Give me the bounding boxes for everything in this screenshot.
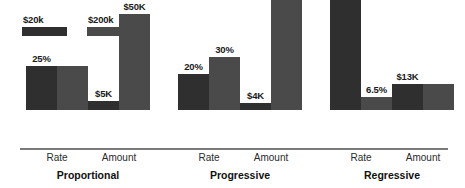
measure-label-amount: Amount [102, 152, 136, 163]
bar-value-label: 30% [215, 44, 233, 55]
bar-regressive-amount-20k: $13K [392, 84, 423, 110]
bar-value-label: 25% [32, 53, 50, 64]
axis-baseline [20, 148, 448, 150]
measure-label-amount: Amount [406, 152, 440, 163]
bar-proportional-rate-20k: 25% [26, 66, 57, 110]
grouped-bar-chart: $20k $200k 25%$5K$50K20%30%$4K$60K65%6.5… [0, 0, 465, 188]
bar-value-label: 6.5% [366, 84, 387, 95]
measure-label-rate: Rate [198, 152, 219, 163]
bar-value-label: $4K [247, 90, 264, 101]
measure-label-rate: Rate [46, 152, 67, 163]
bar-progressive-rate-20k: 20% [178, 74, 209, 110]
bar-proportional-amount-20k: $5K [88, 101, 119, 110]
bar-progressive-amount-20k: $4K [240, 103, 271, 110]
group-label-proportional: Proportional [57, 169, 119, 181]
bar-regressive-rate-200k: 6.5% [361, 97, 392, 110]
group-label-progressive: Progressive [210, 169, 270, 181]
measure-label-rate: Rate [350, 152, 371, 163]
bar-value-label: $50K [124, 1, 146, 12]
bar-proportional-rate-200k [57, 66, 88, 110]
group-label-regressive: Regressive [364, 169, 420, 181]
bar-progressive-amount-200k: $60K [271, 0, 302, 110]
bar-regressive-amount-200k [423, 84, 454, 110]
bar-value-label: 20% [184, 61, 202, 72]
bar-proportional-amount-200k: $50K [119, 14, 150, 110]
bar-value-label: $5K [95, 88, 112, 99]
plot-area: 25%$5K$50K20%30%$4K$60K65%6.5%$13K [0, 0, 465, 150]
bar-progressive-rate-200k: 30% [209, 57, 240, 110]
bar-value-label: $13K [397, 71, 419, 82]
measure-label-amount: Amount [254, 152, 288, 163]
bar-regressive-rate-20k: 65% [330, 0, 361, 110]
